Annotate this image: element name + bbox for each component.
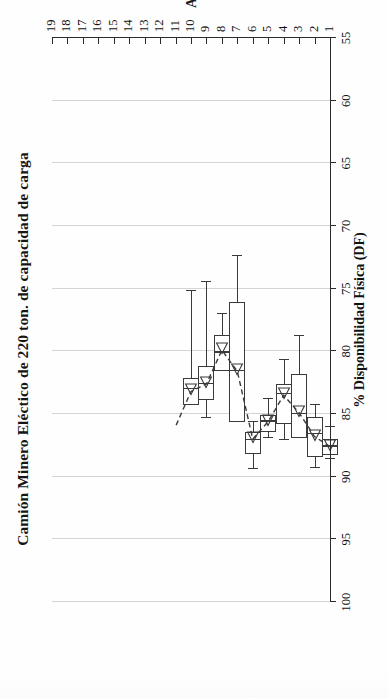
category-axis-tick-label: 9 bbox=[198, 26, 214, 32]
category-axis-tick bbox=[268, 38, 269, 44]
value-axis-tick bbox=[330, 100, 336, 101]
category-axis-tick bbox=[253, 38, 254, 44]
category-axis-tick bbox=[176, 38, 177, 44]
category-axis-tick bbox=[145, 38, 146, 44]
category-axis-tick-label: 2 bbox=[307, 26, 323, 32]
category-axis-tick bbox=[284, 38, 285, 44]
category-axis-tick bbox=[160, 38, 161, 44]
category-axis-tick bbox=[67, 38, 68, 44]
category-axis-tick-label: 6 bbox=[245, 26, 261, 32]
value-axis-tick bbox=[330, 413, 336, 414]
category-axis-tick bbox=[222, 38, 223, 44]
category-axis-tick-label: 13 bbox=[137, 20, 153, 33]
category-axis-tick-label: 7 bbox=[229, 26, 245, 32]
value-axis-tick bbox=[330, 162, 336, 163]
value-axis-tick bbox=[330, 288, 336, 289]
category-axis-tick bbox=[299, 38, 300, 44]
category-axis-tick bbox=[315, 38, 316, 44]
category-axis-tick-label: 16 bbox=[90, 20, 106, 33]
value-axis bbox=[330, 38, 331, 602]
category-axis-tick bbox=[191, 38, 192, 44]
value-axis-tick bbox=[330, 476, 336, 477]
category-axis-title: Años bbox=[52, 0, 331, 8]
value-axis-tick bbox=[330, 538, 336, 539]
category-axis-tick-label: 10 bbox=[183, 20, 199, 33]
value-axis-tick bbox=[330, 350, 336, 351]
category-axis-tick-label: 19 bbox=[44, 20, 60, 33]
category-axis-tick-label: 1 bbox=[322, 26, 338, 32]
value-axis-title: % Disponibilidad Física (DF) bbox=[352, 38, 368, 602]
value-axis-tick bbox=[330, 601, 336, 602]
category-axis-tick-label: 17 bbox=[75, 20, 91, 33]
category-axis-tick-label: 18 bbox=[59, 20, 75, 33]
trend-line bbox=[52, 38, 330, 602]
category-axis-tick bbox=[52, 38, 53, 44]
category-axis-tick-label: 5 bbox=[260, 26, 276, 32]
figure-page: Camión Minero Eléctico de 220 ton. de ca… bbox=[0, 0, 388, 698]
category-axis-title-label: Años bbox=[184, 0, 200, 8]
category-axis-tick-label: 3 bbox=[291, 26, 307, 32]
category-axis-tick-label: 15 bbox=[106, 20, 122, 33]
category-axis-tick bbox=[237, 38, 238, 44]
value-axis-tick bbox=[330, 225, 336, 226]
rotated-figure-host: Camión Minero Eléctico de 220 ton. de ca… bbox=[0, 0, 388, 698]
category-axis-tick bbox=[129, 38, 130, 44]
category-axis-tick-label: 8 bbox=[214, 26, 230, 32]
chart-figure: Camión Minero Eléctico de 220 ton. de ca… bbox=[0, 0, 388, 698]
chart-title: Camión Minero Eléctico de 220 ton. de ca… bbox=[14, 0, 32, 698]
category-axis-tick bbox=[83, 38, 84, 44]
category-axis-tick-label: 12 bbox=[152, 20, 168, 33]
category-axis-tick-label: 14 bbox=[121, 20, 137, 33]
category-axis-tick bbox=[114, 38, 115, 44]
category-axis-tick bbox=[330, 38, 331, 44]
trend-polyline bbox=[176, 350, 330, 447]
category-axis-tick-label: 11 bbox=[168, 20, 184, 32]
plot-area bbox=[52, 38, 330, 602]
category-axis-tick-label: 4 bbox=[276, 26, 292, 32]
category-axis-tick bbox=[98, 38, 99, 44]
category-axis-tick bbox=[206, 38, 207, 44]
